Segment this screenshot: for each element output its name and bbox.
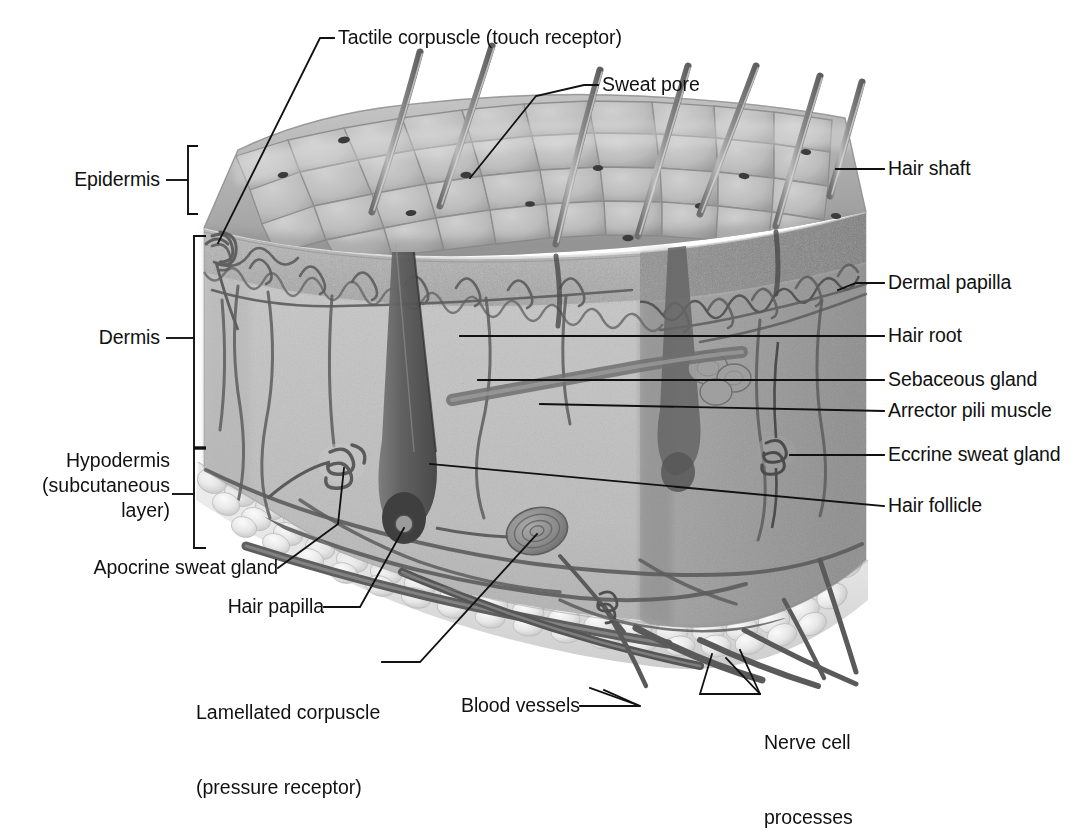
label-nerve-cell-processes-line1: Nerve cell	[764, 730, 853, 755]
label-epidermis: Epidermis	[74, 168, 160, 191]
label-hair-root: Hair root	[888, 324, 962, 347]
label-hypodermis: Hypodermis (subcutaneous layer)	[42, 448, 170, 523]
label-lamellated-corpuscle-line2: (pressure receptor)	[196, 775, 380, 800]
label-sebaceous-gland: Sebaceous gland	[888, 368, 1037, 391]
label-hypodermis-line1: Hypodermis	[42, 448, 170, 473]
label-nerve-cell-processes-line2: processes	[764, 805, 853, 830]
skin-block	[190, 46, 880, 686]
label-tactile-corpuscle: Tactile corpuscle (touch receptor)	[338, 26, 622, 49]
hair-papilla-node	[395, 515, 413, 533]
label-sweat-pore: Sweat pore	[602, 73, 700, 96]
label-hair-papilla: Hair papilla	[228, 595, 324, 618]
epidermis-bracket	[188, 146, 198, 214]
label-lamellated-corpuscle-line1: Lamellated corpuscle	[196, 700, 380, 725]
label-apocrine-sweat-gland: Apocrine sweat gland	[94, 556, 278, 579]
label-arrector-pili-muscle: Arrector pili muscle	[888, 399, 1052, 422]
label-dermal-papilla: Dermal papilla	[888, 271, 1011, 294]
label-hair-shaft: Hair shaft	[888, 157, 970, 180]
label-blood-vessels: Blood vessels	[461, 694, 580, 717]
label-lamellated-corpuscle: Lamellated corpuscle (pressure receptor)	[196, 650, 380, 825]
label-hair-follicle: Hair follicle	[888, 494, 982, 517]
label-hypodermis-line2: (subcutaneous	[42, 473, 170, 498]
label-eccrine-sweat-gland: Eccrine sweat gland	[888, 443, 1061, 466]
label-hypodermis-line3: layer)	[42, 498, 170, 523]
label-dermis: Dermis	[99, 326, 160, 349]
label-nerve-cell-processes: Nerve cell processes	[764, 680, 853, 832]
leader-blood-vessels-2	[590, 688, 640, 706]
